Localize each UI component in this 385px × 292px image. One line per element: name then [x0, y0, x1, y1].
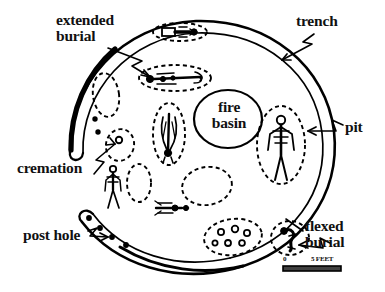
- scale-bar-graphic: [283, 266, 341, 271]
- artifact-stone: [232, 226, 239, 233]
- artifact-stone: [218, 229, 224, 235]
- cremation-deposit: [116, 137, 122, 143]
- arrowhead-cremation: [106, 138, 115, 145]
- post-hole-dot: [97, 225, 103, 231]
- scale-bar-fill: [283, 266, 341, 271]
- leader-cremation: [94, 144, 115, 174]
- post-hole-dot: [92, 116, 97, 121]
- skeleton-center-small: [155, 201, 189, 215]
- skeleton-east-pit: [268, 116, 294, 180]
- scale-bar-max-label: 5 FEET: [311, 256, 333, 263]
- pit-artifact-filled: [202, 216, 264, 259]
- label-post-hole: post hole: [23, 227, 80, 243]
- trench-inner-edge-upper: [83, 33, 323, 258]
- label-extended-burial: extended burial: [56, 12, 114, 44]
- post-hole-dot: [95, 129, 100, 134]
- artifact-stone: [225, 240, 231, 246]
- post-hole-dot: [109, 234, 115, 240]
- pit-center-south: [179, 163, 234, 208]
- label-cremation: cremation: [17, 160, 82, 176]
- artifact-stone: [244, 230, 250, 236]
- artifact-cluster: [212, 226, 250, 246]
- artifact-stone: [212, 240, 217, 245]
- label-pit: pit: [345, 119, 363, 135]
- label-fire-basin: fire basin: [201, 99, 257, 131]
- skeleton-extended-burial: [146, 72, 202, 84]
- label-trench: trench: [296, 13, 338, 29]
- leader-trench: [282, 34, 314, 60]
- skeleton-west-standing: [105, 166, 121, 208]
- interior-post-holes: [92, 116, 100, 134]
- site-plan-figure: extended burial trench fire basin pit cr…: [0, 0, 385, 292]
- label-flexed-burial: flexed burial: [305, 218, 344, 250]
- post-hole-dot: [123, 242, 129, 248]
- skeleton-center-vertical: [162, 114, 177, 163]
- leader-pit: [308, 120, 343, 131]
- scale-bar-min-label: 0: [283, 256, 286, 263]
- post-hole-dot: [86, 215, 92, 221]
- post-hole-group: [86, 215, 129, 248]
- pit-upper-left: [90, 71, 122, 118]
- pit-west-small: [127, 164, 151, 202]
- artifact-stone: [239, 240, 245, 246]
